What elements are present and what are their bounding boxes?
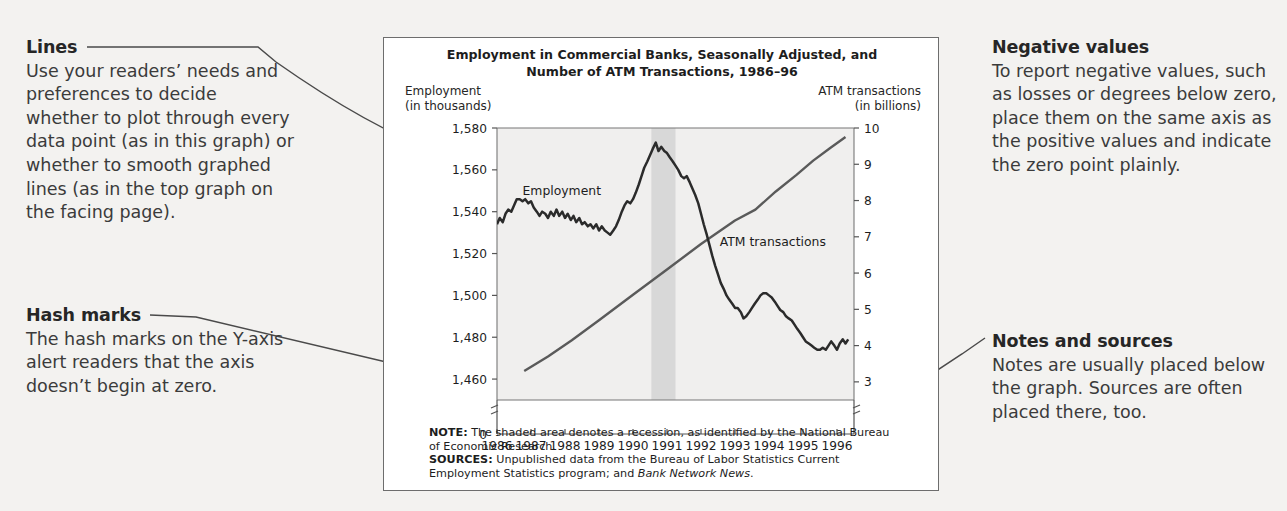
chart-sources-italic: Bank Network News — [638, 467, 750, 480]
annotation-lines-heading: Lines — [26, 36, 294, 60]
annotation-notes-sources-body: Notes are usually placed below the graph… — [992, 354, 1280, 425]
annotation-lines-body: Use your readers’ needs and preferences … — [26, 60, 294, 225]
chart-note-text: The shaded area denotes a recession, as … — [429, 426, 889, 453]
left-y-tick-label: 1,520 — [452, 247, 487, 261]
left-y-tick-label: 1,540 — [452, 205, 487, 219]
chart-note-label: NOTE: — [429, 426, 468, 439]
plot-area: 1,4601,4801,5001,5201,5401,5601,58034567… — [384, 38, 940, 492]
chart-sources-text-2: . — [750, 467, 754, 480]
left-y-tick-label: 1,580 — [452, 122, 487, 136]
left-y-tick-label: 1,460 — [452, 373, 487, 387]
chart-note-line: NOTE: The shaded area denotes a recessio… — [429, 426, 899, 453]
chart-sources-label: SOURCES: — [429, 453, 493, 466]
annotation-lines: Lines Use your readers’ needs and prefer… — [26, 36, 294, 225]
right-y-tick-label: 10 — [864, 122, 880, 136]
annotation-hash-marks: Hash marks The hash marks on the Y-axis … — [26, 304, 294, 398]
annotation-hash-marks-body: The hash marks on the Y-axis alert reade… — [26, 328, 294, 399]
right-y-tick-label: 6 — [864, 267, 872, 281]
annotation-negative-values-body: To report negative values, such as losse… — [992, 60, 1280, 178]
right-y-tick-label: 7 — [864, 230, 872, 244]
figure-page: Lines Use your readers’ needs and prefer… — [0, 0, 1287, 511]
right-y-tick-label: 8 — [864, 194, 872, 208]
chart-sources-line: SOURCES: Unpublished data from the Burea… — [429, 453, 899, 480]
annotation-notes-sources: Notes and sources Notes are usually plac… — [992, 330, 1280, 424]
chart-svg: 1,4601,4801,5001,5201,5401,5601,58034567… — [384, 38, 940, 492]
right-y-tick-label: 3 — [864, 375, 872, 389]
figure-frame: Employment in Commercial Banks, Seasonal… — [383, 37, 939, 491]
annotation-negative-values: Negative values To report negative value… — [992, 36, 1280, 178]
left-y-tick-label: 1,480 — [452, 331, 487, 345]
series-label-atm-transactions: ATM transactions — [720, 234, 826, 249]
chart-notes-block: NOTE: The shaded area denotes a recessio… — [429, 426, 899, 480]
left-y-tick-label: 1,500 — [452, 289, 487, 303]
right-y-tick-label: 5 — [864, 303, 872, 317]
annotation-notes-sources-heading: Notes and sources — [992, 330, 1280, 354]
right-y-tick-label: 9 — [864, 158, 872, 172]
right-y-tick-label: 4 — [864, 339, 872, 353]
left-y-tick-label: 1,560 — [452, 163, 487, 177]
annotation-negative-values-heading: Negative values — [992, 36, 1280, 60]
annotation-hash-marks-heading: Hash marks — [26, 304, 294, 328]
series-label-employment: Employment — [523, 183, 602, 198]
